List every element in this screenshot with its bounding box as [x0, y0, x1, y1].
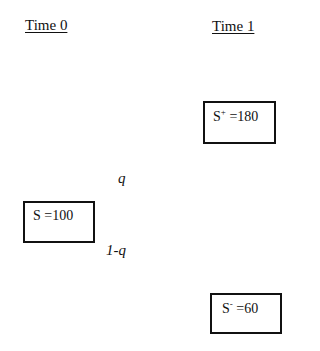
- node-up-label: S+ =180: [213, 110, 258, 124]
- node-down-symbol: S: [222, 301, 230, 316]
- probability-down-label: 1-q: [106, 243, 126, 258]
- node-root-label: S =100: [33, 209, 73, 223]
- node-root-value: =100: [41, 208, 73, 223]
- probability-up-label: q: [118, 171, 126, 186]
- node-root-symbol: S: [33, 208, 41, 223]
- node-down-state: S- =60: [210, 293, 282, 334]
- node-up-value: =180: [226, 109, 258, 124]
- node-root-state: S =100: [23, 201, 95, 243]
- node-up-state: S+ =180: [203, 101, 276, 144]
- node-up-symbol: S: [213, 109, 221, 124]
- time-1-heading: Time 1: [212, 19, 254, 34]
- node-down-value: =60: [233, 301, 258, 316]
- node-down-label: S- =60: [222, 302, 258, 316]
- time-0-heading: Time 0: [25, 18, 67, 33]
